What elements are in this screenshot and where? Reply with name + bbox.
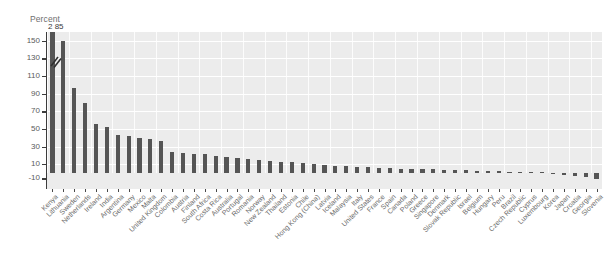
x-axis-tick — [205, 189, 206, 192]
y-axis-tick-label: 110 — [0, 71, 40, 80]
bar — [224, 157, 228, 173]
bar — [562, 173, 566, 175]
bar — [573, 173, 577, 176]
x-axis-tick — [477, 189, 478, 192]
x-axis-tick — [422, 189, 423, 192]
x-axis-tick — [259, 189, 260, 192]
x-axis-tick — [488, 189, 489, 192]
bar — [388, 168, 392, 173]
bar-series — [47, 32, 602, 189]
y-axis-tick-label: 90 — [0, 89, 40, 98]
x-axis-tick — [325, 189, 326, 192]
bar — [83, 103, 87, 174]
bar — [442, 170, 446, 173]
y-axis-tick-label: 130 — [0, 53, 40, 62]
bar — [148, 139, 152, 173]
bar — [431, 169, 435, 173]
x-axis-tick — [542, 189, 543, 192]
bar — [257, 160, 261, 173]
bar — [301, 163, 305, 173]
bar — [181, 153, 185, 173]
x-axis-tick — [227, 189, 228, 192]
x-axis-tick — [466, 189, 467, 192]
x-axis-tick — [74, 189, 75, 192]
x-axis-tick — [194, 189, 195, 192]
bar — [127, 136, 131, 173]
x-axis-tick — [597, 189, 598, 192]
bar — [377, 168, 381, 173]
bar — [507, 172, 511, 173]
bar — [453, 170, 457, 173]
x-axis-tick — [575, 189, 576, 192]
bar — [203, 154, 207, 173]
x-axis-tick — [401, 189, 402, 192]
x-axis-tick — [172, 189, 173, 192]
x-axis-tick — [455, 189, 456, 192]
y-axis-tick-label: 70 — [0, 106, 40, 115]
x-axis-tick — [368, 189, 369, 192]
bar — [170, 152, 174, 173]
bar — [105, 127, 109, 173]
x-axis-tick — [412, 189, 413, 192]
y-axis-tick-label: -10 — [0, 173, 40, 182]
y-axis-tick-label: 30 — [0, 142, 40, 151]
x-axis-tick — [499, 189, 500, 192]
bar — [551, 173, 555, 174]
x-axis-tick — [520, 189, 521, 192]
bar — [355, 167, 359, 173]
bar — [497, 171, 501, 173]
bar — [366, 167, 370, 173]
bar — [344, 166, 348, 173]
x-axis-tick — [183, 189, 184, 192]
x-axis-tick — [444, 189, 445, 192]
x-axis-tick — [346, 189, 347, 192]
bar — [333, 166, 337, 173]
x-axis-tick — [118, 189, 119, 192]
bar — [268, 161, 272, 173]
bar — [246, 159, 250, 173]
x-axis-tick — [96, 189, 97, 192]
bar — [61, 41, 65, 173]
bar — [529, 172, 533, 173]
bar — [235, 158, 239, 173]
y-axis-tick-label: 10 — [0, 159, 40, 168]
x-axis-tick — [292, 189, 293, 192]
bar — [518, 172, 522, 173]
x-axis-tick — [433, 189, 434, 192]
x-axis-tick — [586, 189, 587, 192]
x-axis-tick — [357, 189, 358, 192]
x-axis-tick — [237, 189, 238, 192]
bar — [94, 124, 98, 173]
x-axis-tick — [390, 189, 391, 192]
bar — [137, 138, 141, 173]
bar — [409, 169, 413, 173]
bar — [475, 171, 479, 173]
bar — [159, 141, 163, 173]
x-axis-tick — [140, 189, 141, 192]
x-axis-tick — [335, 189, 336, 192]
bar — [279, 162, 283, 173]
x-axis-tick — [52, 189, 53, 192]
bar — [594, 173, 598, 179]
bar — [420, 169, 424, 173]
x-axis-tick — [270, 189, 271, 192]
bar — [290, 162, 294, 173]
x-axis-tick — [510, 189, 511, 192]
y-axis-tick-label: 150 — [0, 36, 40, 45]
bar — [584, 173, 588, 177]
x-axis-tick — [531, 189, 532, 192]
x-axis-tick — [281, 189, 282, 192]
x-axis-tick — [129, 189, 130, 192]
x-axis-tick — [303, 189, 304, 192]
y-axis-tick-label: 50 — [0, 124, 40, 133]
bar-chart: Percent 1501301109070503010-10 2 85 Keny… — [0, 0, 615, 256]
x-axis-tick — [216, 189, 217, 192]
bar — [322, 165, 326, 173]
truncated-bar-value-label: 2 85 — [48, 22, 64, 31]
x-axis-tick — [248, 189, 249, 192]
bar — [50, 32, 54, 173]
bar — [464, 170, 468, 173]
x-axis-tick — [63, 189, 64, 192]
x-axis-tick — [553, 189, 554, 192]
x-axis-tick — [107, 189, 108, 192]
